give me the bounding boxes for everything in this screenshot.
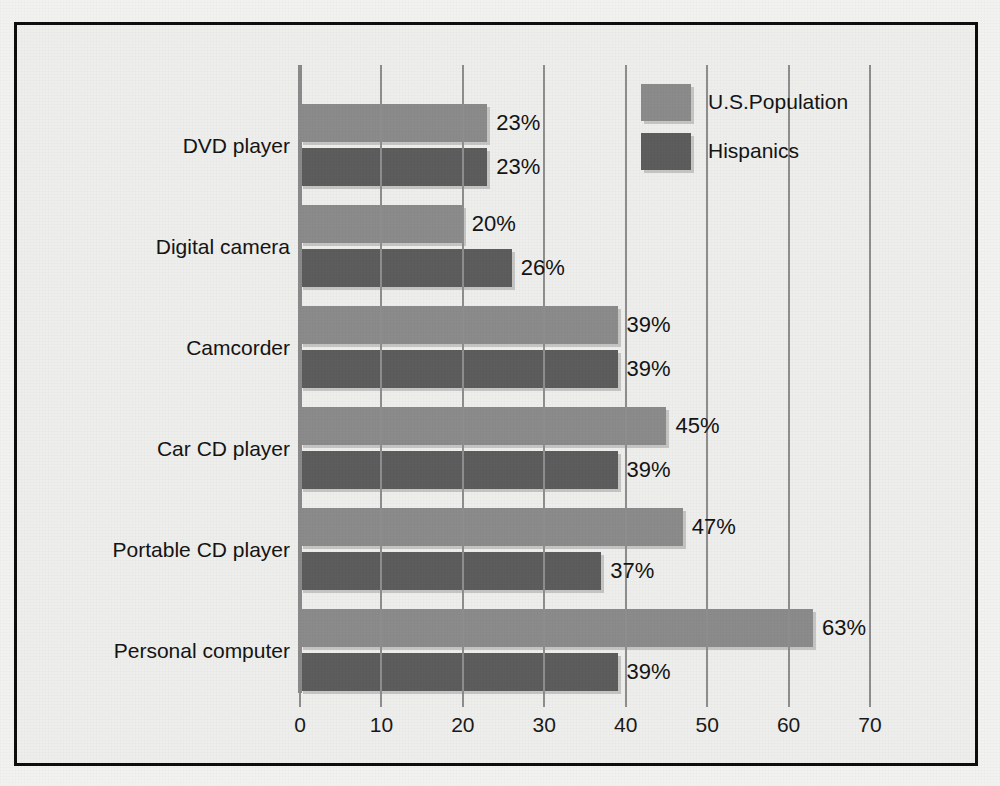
bar bbox=[300, 249, 512, 287]
category-label: Digital camera bbox=[156, 236, 290, 257]
gridline-30 bbox=[543, 65, 545, 693]
gridline-70 bbox=[869, 65, 871, 693]
bar bbox=[300, 407, 666, 445]
bar-value-label: 47% bbox=[692, 508, 736, 546]
category-label: Portable CD player bbox=[113, 539, 290, 560]
category-label: Car CD player bbox=[157, 438, 290, 459]
tick-mark-20 bbox=[462, 693, 464, 707]
bar bbox=[300, 306, 618, 344]
bar-value-label: 63% bbox=[822, 609, 866, 647]
category-axis: DVD playerDigital cameraCamcorderCar CD … bbox=[37, 65, 290, 705]
legend-label: Hispanics bbox=[708, 139, 799, 163]
bar-value-label: 37% bbox=[610, 552, 654, 590]
bar-value-label: 26% bbox=[521, 249, 565, 287]
bar-value-label: 39% bbox=[627, 350, 671, 388]
bar-value-label: 39% bbox=[627, 653, 671, 691]
legend-item: U.S.Population bbox=[641, 83, 848, 121]
bar bbox=[300, 552, 601, 590]
bar bbox=[300, 451, 618, 489]
x-axis-tick-label: 60 bbox=[777, 713, 800, 737]
chart-frame: DVD playerDigital cameraCamcorderCar CD … bbox=[14, 22, 978, 766]
bar bbox=[300, 653, 618, 691]
x-axis-tick-label: 0 bbox=[294, 713, 306, 737]
gridline-20 bbox=[462, 65, 464, 693]
tick-mark-60 bbox=[788, 693, 790, 707]
tick-mark-50 bbox=[706, 693, 708, 707]
bar bbox=[300, 609, 813, 647]
bar bbox=[300, 350, 618, 388]
legend-label: U.S.Population bbox=[708, 90, 848, 114]
bar-value-label: 39% bbox=[627, 451, 671, 489]
x-axis-tick-label: 40 bbox=[614, 713, 637, 737]
tick-mark-40 bbox=[625, 693, 627, 707]
bar-value-label: 23% bbox=[496, 148, 540, 186]
legend-swatch-icon bbox=[641, 84, 691, 121]
x-axis-tick-label: 10 bbox=[370, 713, 393, 737]
category-label: Camcorder bbox=[186, 337, 290, 358]
category-label: Personal computer bbox=[114, 640, 290, 661]
gridline-10 bbox=[380, 65, 382, 693]
bar bbox=[300, 148, 487, 186]
bar-value-label: 39% bbox=[627, 306, 671, 344]
x-axis-tick-label: 20 bbox=[451, 713, 474, 737]
tick-mark-10 bbox=[380, 693, 382, 707]
bar-value-label: 23% bbox=[496, 104, 540, 142]
category-label: DVD player bbox=[183, 135, 290, 156]
bar-value-label: 45% bbox=[675, 407, 719, 445]
chart-legend: U.S.PopulationHispanics bbox=[641, 83, 848, 181]
bar bbox=[300, 104, 487, 142]
legend-item: Hispanics bbox=[641, 132, 848, 170]
tick-mark-0 bbox=[299, 693, 301, 707]
x-axis-tick-label: 50 bbox=[695, 713, 718, 737]
tick-mark-70 bbox=[869, 693, 871, 707]
x-axis-tick-label: 30 bbox=[533, 713, 556, 737]
tick-mark-30 bbox=[543, 693, 545, 707]
axis-baseline bbox=[298, 65, 302, 693]
legend-swatch-icon bbox=[641, 133, 691, 170]
bar-value-label: 20% bbox=[472, 205, 516, 243]
x-axis-tick-label: 70 bbox=[858, 713, 881, 737]
